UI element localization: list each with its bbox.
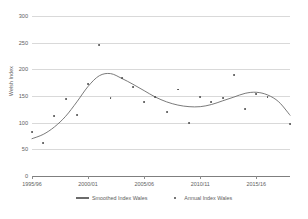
series-lines bbox=[32, 16, 290, 176]
data-point-marker bbox=[53, 115, 55, 117]
y-axis-tick-label: 200 bbox=[19, 66, 28, 72]
y-axis-tick-label: 100 bbox=[19, 120, 28, 126]
legend-item[interactable]: Smoothed Index Wales bbox=[76, 195, 148, 201]
legend-item-label: Smoothed Index Wales bbox=[92, 195, 148, 201]
data-point-marker bbox=[233, 74, 235, 76]
x-axis-tick-mark bbox=[256, 176, 257, 179]
legend-line-swatch-icon bbox=[76, 197, 89, 198]
data-point-marker bbox=[222, 97, 224, 99]
data-point-marker bbox=[255, 93, 257, 95]
y-axis-tick-label: 150 bbox=[19, 93, 28, 99]
chart-legend: Smoothed Index WalesAnnual Index Wales bbox=[0, 195, 308, 201]
x-axis-tick-mark bbox=[88, 176, 89, 179]
data-point-marker bbox=[211, 101, 213, 103]
x-axis-tick-mark bbox=[32, 176, 33, 179]
x-axis-tick-label: 2005/06 bbox=[134, 181, 154, 187]
data-point-marker bbox=[132, 86, 134, 88]
x-axis-tick-mark bbox=[200, 176, 201, 179]
legend-item[interactable]: Annual Index Wales bbox=[173, 195, 232, 201]
chart-container: Welsh Index 050100150200250300 1995/9620… bbox=[0, 0, 308, 219]
legend-item-label: Annual Index Wales bbox=[184, 195, 232, 201]
data-point-marker bbox=[65, 98, 67, 100]
y-axis-tick-label: 50 bbox=[22, 146, 28, 152]
data-point-marker bbox=[267, 96, 269, 98]
data-point-marker bbox=[244, 108, 246, 110]
y-axis-title: Welsh Index bbox=[8, 46, 14, 116]
data-point-marker bbox=[289, 123, 291, 125]
x-axis-tick-label: 1995/96 bbox=[22, 181, 42, 187]
data-point-marker bbox=[31, 131, 33, 133]
x-axis-tick-mark bbox=[144, 176, 145, 179]
data-point-marker bbox=[110, 97, 112, 99]
legend-dot-swatch-icon bbox=[174, 197, 176, 199]
x-axis-tick-label: 2010/11 bbox=[191, 181, 210, 187]
plot-area bbox=[32, 16, 290, 176]
data-point-marker bbox=[143, 101, 145, 103]
data-point-marker bbox=[121, 77, 123, 79]
data-point-marker bbox=[87, 83, 89, 85]
data-point-marker bbox=[42, 143, 44, 145]
data-point-marker bbox=[177, 89, 179, 91]
data-point-marker bbox=[188, 122, 190, 124]
x-axis-line bbox=[32, 176, 290, 177]
y-axis-tick-label: 300 bbox=[19, 13, 28, 19]
data-point-marker bbox=[199, 96, 201, 98]
data-point-marker bbox=[166, 111, 168, 113]
data-point-marker bbox=[154, 96, 156, 98]
y-axis-tick-label: 250 bbox=[19, 40, 28, 46]
x-axis-tick-label: 2000/01 bbox=[78, 181, 98, 187]
smoothed-index-line bbox=[32, 73, 290, 138]
data-point-marker bbox=[98, 44, 100, 46]
y-axis-tick-label: 0 bbox=[25, 173, 28, 179]
data-point-marker bbox=[76, 114, 78, 116]
x-axis-tick-label: 2015/16 bbox=[247, 181, 267, 187]
